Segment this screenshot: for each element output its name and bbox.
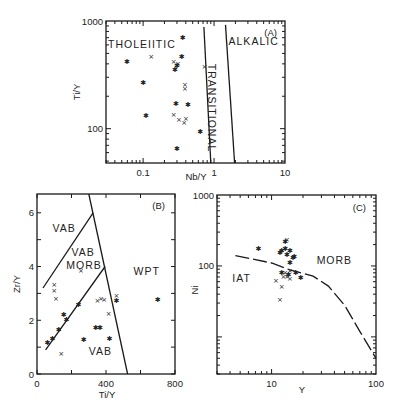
plot-a: 0.11101001000 THOLEIITICTRANSITIONALALKA…	[71, 16, 290, 183]
cross-marker: ×	[148, 53, 154, 61]
x-tick-label: 0	[34, 378, 39, 389]
plot-a-points: ✱✱✱✱✱✱✱✱✱✱✱××××××××××	[124, 34, 207, 153]
asterisk-marker: ✱	[56, 326, 62, 334]
field-label: MORB	[66, 259, 102, 271]
plot-c-panel-label: (C)	[353, 202, 366, 213]
x-tick-label: 1	[211, 167, 216, 178]
cross-marker: ×	[175, 60, 181, 68]
plot-b-xlabel: Ti/Y	[99, 389, 116, 400]
field-boundary-line	[235, 256, 376, 359]
plot-c: 101001001000 IATMORB ✱✱✱✱✱✱✱✱✱✱✱✱✱✱×××××…	[189, 190, 384, 396]
cross-marker: ×	[182, 85, 188, 93]
asterisk-marker: ✱	[107, 335, 113, 343]
field-label: WPT	[134, 265, 160, 277]
x-tick-label: 400	[98, 378, 114, 389]
y-tick-label: 0	[29, 369, 34, 380]
cross-marker: ×	[282, 269, 288, 277]
plot-c-boundaries	[235, 256, 376, 359]
field-label: VAB	[53, 222, 76, 234]
asterisk-marker: ✱	[155, 296, 161, 304]
y-tick-label: 1000	[82, 16, 103, 27]
figure: 0.11101001000 THOLEIITICTRANSITIONALALKA…	[0, 0, 396, 414]
y-tick-label: 6	[29, 207, 34, 218]
plot-b: 04008000246 VABVABMORBWPTVAB ✱✱✱✱✱✱✱✱✱✱✱…	[11, 194, 183, 400]
x-tick-label: 100	[368, 378, 384, 389]
plot-a-ylabel: Ti/Y	[71, 83, 82, 100]
field-label: IAT	[232, 272, 251, 284]
asterisk-marker: ✱	[174, 145, 180, 153]
plot-b-ylabel: Zr/Y	[11, 274, 22, 293]
asterisk-marker: ✱	[185, 101, 191, 109]
asterisk-marker: ✱	[180, 34, 186, 42]
asterisk-marker: ✱	[50, 335, 56, 343]
asterisk-marker: ✱	[75, 301, 81, 309]
cross-marker: ×	[106, 310, 112, 318]
asterisk-marker: ✱	[197, 128, 203, 136]
plot-b-panel-label: (B)	[152, 200, 165, 211]
y-tick-label: 1000	[193, 190, 214, 201]
asterisk-marker: ✱	[173, 100, 179, 108]
asterisk-marker: ✱	[140, 79, 146, 87]
asterisk-marker: ✱	[81, 336, 87, 344]
y-tick-label: 100	[87, 123, 103, 134]
cross-marker: ×	[53, 295, 59, 303]
x-tick-label: 10	[280, 167, 291, 178]
field-label: MORB	[317, 254, 353, 266]
cross-marker: ×	[78, 267, 84, 275]
field-label: THOLEIITIC	[108, 38, 176, 50]
field-label: VAB	[89, 345, 112, 357]
cross-marker: ×	[201, 63, 207, 71]
plot-c-xlabel: Y	[299, 384, 306, 395]
plot-a-panel-label: (A)	[264, 27, 277, 38]
cross-marker: ×	[277, 296, 283, 304]
field-label: TRANSITIONAL	[206, 64, 218, 152]
x-tick-label: 800	[167, 378, 183, 389]
plot-b-points: ✱✱✱✱✱✱✱✱✱✱✱✱××××××××××	[44, 267, 160, 358]
asterisk-marker: ✱	[143, 112, 149, 120]
y-tick-label: 2	[29, 315, 34, 326]
asterisk-marker: ✱	[124, 58, 130, 66]
x-tick-label: 10	[266, 378, 277, 389]
field-label: VAB	[72, 246, 95, 258]
plot-c-ticks: 101001001000	[193, 190, 384, 390]
asterisk-marker: ✱	[291, 253, 297, 261]
cross-marker: ×	[181, 119, 187, 127]
asterisk-marker: ✱	[298, 274, 304, 282]
cross-marker: ×	[51, 287, 57, 295]
asterisk-marker: ✱	[97, 324, 103, 332]
cross-marker: ×	[101, 296, 107, 304]
plot-c-ylabel: Ni	[189, 286, 200, 295]
plot-c-frame	[217, 195, 376, 374]
asterisk-marker: ✱	[63, 316, 69, 324]
cross-marker: ×	[113, 292, 119, 300]
plot-c-points: ✱✱✱✱✱✱✱✱✱✱✱✱✱✱×××××××××	[256, 236, 304, 304]
asterisk-marker: ✱	[256, 245, 262, 253]
plot-a-xlabel: Nb/Y	[185, 171, 207, 182]
cross-marker: ×	[284, 236, 290, 244]
cross-marker: ×	[279, 283, 285, 291]
plot-a-field-labels: THOLEIITICTRANSITIONALALKALIC	[108, 35, 279, 152]
cross-marker: ×	[58, 350, 64, 358]
y-tick-label: 4	[29, 261, 34, 272]
y-tick-label: 100	[198, 260, 214, 271]
x-tick-label: 0.1	[136, 167, 149, 178]
